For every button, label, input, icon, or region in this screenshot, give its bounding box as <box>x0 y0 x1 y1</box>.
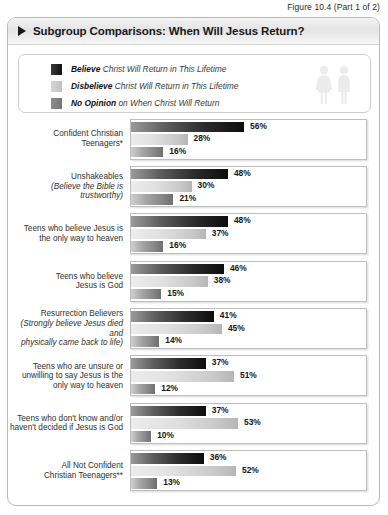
bar-believe <box>131 406 206 417</box>
bar-disbelieve <box>131 134 188 145</box>
bar-row: 52% <box>131 466 366 477</box>
bar-row: 10% <box>131 431 366 442</box>
bar-value-disbelieve: 37% <box>212 228 229 238</box>
legend-label-noopinion: No Opinion on When Christ Will Return <box>71 98 219 108</box>
group-bar-box: 41%45%14% <box>130 308 367 349</box>
bar-value-believe: 56% <box>250 121 267 131</box>
bar-noopinion <box>131 241 163 252</box>
bar-value-disbelieve: 52% <box>242 465 259 475</box>
bar-row: 53% <box>131 418 366 429</box>
bar-noopinion <box>131 289 161 300</box>
bar-row: 51% <box>131 371 366 382</box>
bar-noopinion <box>131 147 163 158</box>
bar-row: 48% <box>131 169 366 180</box>
group-label: Teens who believeJesus is God <box>8 272 130 291</box>
bar-value-believe: 37% <box>212 357 229 367</box>
bar-value-noopinion: 16% <box>169 146 186 156</box>
bar-row: 14% <box>131 336 366 347</box>
bar-value-disbelieve: 30% <box>198 180 215 190</box>
chart-group: Teens who don't know and/orhaven't decid… <box>8 401 379 445</box>
bar-value-believe: 46% <box>230 263 247 273</box>
bar-row: 30% <box>131 181 366 192</box>
bar-row: 28% <box>131 134 366 145</box>
chart-legend: Believe Christ Will Return in This Lifet… <box>18 54 371 113</box>
bar-value-noopinion: 14% <box>165 335 182 345</box>
legend-label-disbelieve: Disbelieve Christ Will Return in This Li… <box>71 81 238 91</box>
bar-value-noopinion: 12% <box>161 383 178 393</box>
bar-row: 12% <box>131 384 366 395</box>
bar-row: 46% <box>131 264 366 275</box>
bar-value-noopinion: 16% <box>169 240 186 250</box>
group-label: Teens who are unsure orunwilling to say … <box>8 362 130 391</box>
bar-disbelieve <box>131 229 206 240</box>
bar-value-believe: 48% <box>234 215 251 225</box>
bar-row: 37% <box>131 358 366 369</box>
group-bar-box: 46%38%15% <box>130 261 367 302</box>
group-label: Unshakeables(Believe the Bible is trustw… <box>8 172 130 201</box>
bar-believe <box>131 453 204 464</box>
chart-groups: Confident ChristianTeenagers*56%28%16%Un… <box>8 117 379 496</box>
figure-root: Figure 10.4 (Part 1 of 2) Subgroup Compa… <box>0 0 388 515</box>
bar-value-noopinion: 10% <box>157 430 174 440</box>
group-bar-box: 37%51%12% <box>130 355 367 396</box>
group-label: Teens who don't know and/orhaven't decid… <box>8 414 130 433</box>
bar-believe <box>131 216 228 227</box>
bar-row: 38% <box>131 276 366 287</box>
bar-believe <box>131 169 228 180</box>
chart-group: Unshakeables(Believe the Bible is trustw… <box>8 164 379 208</box>
chart-group: Resurrection Believers(Strongly believe … <box>8 307 379 351</box>
chart-group: Confident ChristianTeenagers*56%28%16% <box>8 117 379 161</box>
bar-row: 16% <box>131 241 366 252</box>
figure-caption: Figure 10.4 (Part 1 of 2) <box>287 2 380 12</box>
bar-believe <box>131 311 214 322</box>
chart-group: Teens who believe Jesus isthe only way t… <box>8 212 379 256</box>
bar-believe <box>131 264 224 275</box>
bar-disbelieve <box>131 276 208 287</box>
bar-noopinion <box>131 336 159 347</box>
bar-value-believe: 41% <box>220 310 237 320</box>
bar-row: 56% <box>131 122 366 133</box>
page-title: Subgroup Comparisons: When Will Jesus Re… <box>33 25 304 37</box>
group-bar-box: 36%52%13% <box>130 450 367 491</box>
bar-disbelieve <box>131 181 192 192</box>
bar-row: 21% <box>131 194 366 205</box>
legend-swatch-believe <box>51 64 62 75</box>
triangle-right-icon <box>18 26 26 36</box>
bar-value-disbelieve: 28% <box>194 133 211 143</box>
chart-group: All Not ConfidentChristian Teenagers**36… <box>8 449 379 493</box>
bar-disbelieve <box>131 466 236 477</box>
bar-value-disbelieve: 53% <box>244 417 261 427</box>
bar-row: 37% <box>131 406 366 417</box>
bar-value-disbelieve: 38% <box>214 275 231 285</box>
bar-noopinion <box>131 384 155 395</box>
group-bar-box: 48%30%21% <box>130 166 367 207</box>
bar-value-believe: 48% <box>234 168 251 178</box>
bar-value-disbelieve: 51% <box>240 370 257 380</box>
bar-value-noopinion: 13% <box>163 477 180 487</box>
bar-disbelieve <box>131 371 234 382</box>
bar-disbelieve <box>131 324 222 335</box>
bar-value-believe: 37% <box>212 405 229 415</box>
chart-group: Teens who believeJesus is God46%38%15% <box>8 259 379 303</box>
figure-header: Subgroup Comparisons: When Will Jesus Re… <box>8 18 379 45</box>
bar-row: 45% <box>131 324 366 335</box>
bar-row: 36% <box>131 453 366 464</box>
bar-row: 15% <box>131 289 366 300</box>
group-bar-box: 48%37%16% <box>130 213 367 254</box>
bar-row: 13% <box>131 478 366 489</box>
bar-noopinion <box>131 478 157 489</box>
bar-disbelieve <box>131 418 238 429</box>
bar-row: 48% <box>131 216 366 227</box>
bar-row: 37% <box>131 229 366 240</box>
group-label: Resurrection Believers(Strongly believe … <box>8 309 130 347</box>
group-label: All Not ConfidentChristian Teenagers** <box>8 461 130 480</box>
legend-swatch-noopinion <box>51 98 62 109</box>
two-person-figures-icon <box>312 63 356 105</box>
group-label: Teens who believe Jesus isthe only way t… <box>8 224 130 243</box>
bar-noopinion <box>131 194 173 205</box>
bar-row: 16% <box>131 147 366 158</box>
group-label: Confident ChristianTeenagers* <box>8 129 130 148</box>
group-bar-box: 37%53%10% <box>130 403 367 444</box>
bar-value-disbelieve: 45% <box>228 323 245 333</box>
bar-noopinion <box>131 431 151 442</box>
